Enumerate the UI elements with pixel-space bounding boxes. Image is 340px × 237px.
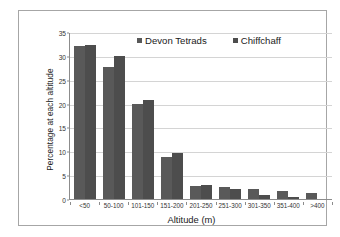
bar-series-1[interactable] [219,187,230,199]
x-tick-label: >400 [303,202,332,209]
x-tick-mark [303,202,304,205]
x-tick-mark [157,202,158,205]
x-tick-mark [216,202,217,205]
bar-series-1[interactable] [277,191,288,199]
x-tick-mark [128,202,129,205]
x-tick-label: <50 [70,202,99,209]
x-tick-label: 50-100 [99,202,128,209]
x-axis-line [69,199,332,200]
bar-group [186,33,215,199]
bar-group [245,33,274,199]
y-tick-label: 30 [59,53,66,60]
bar-group [128,33,157,199]
x-tick-mark [70,202,71,205]
bar-series-1[interactable] [74,46,85,199]
plot-area: 05101520253035 [69,33,332,200]
y-axis-title: Percentage at each altitude [46,45,55,195]
x-axis-title: Altitude (m) [37,214,340,225]
x-tick-mark [186,202,187,205]
bar-group [274,33,303,199]
bars-layer [70,33,332,199]
x-tick-label: 101-150 [128,202,157,209]
bar-series-1[interactable] [306,193,317,199]
bar-series-2[interactable] [230,189,241,199]
x-tick-label: 301-350 [245,202,274,209]
y-tick-label: 15 [59,125,66,132]
bar-series-1[interactable] [161,157,172,199]
x-tick-mark [274,202,275,205]
x-tick-label: 201-250 [186,202,215,209]
x-tick-mark [332,202,333,205]
bar-series-2[interactable] [114,56,125,199]
x-tick-label: 351-400 [274,202,303,209]
bar-series-2[interactable] [85,45,96,199]
bar-series-2[interactable] [259,195,270,199]
x-axis-ticks: <5050-100101-150151-200201-250251-300301… [70,202,332,209]
x-tick-mark [245,202,246,205]
y-tick-label: 25 [59,77,66,84]
y-tick-label: 0 [62,197,66,204]
y-tick-label: 20 [59,101,66,108]
bar-series-1[interactable] [248,189,259,199]
y-tick-label: 35 [59,30,66,37]
bar-series-2[interactable] [172,153,183,199]
bar-series-2[interactable] [288,197,299,199]
y-tick-label: 5 [62,173,66,180]
bar-group [303,33,332,199]
bar-group [216,33,245,199]
bar-series-1[interactable] [132,104,143,199]
y-tick-label: 10 [59,149,66,156]
x-tick-label: 151-200 [157,202,186,209]
chart-figure: Percentage at each altitude Devon Tetrad… [0,0,340,237]
bar-group [70,33,99,199]
x-tick-mark [99,202,100,205]
bar-series-2[interactable] [201,185,212,199]
x-tick-label: 251-300 [216,202,245,209]
bar-series-1[interactable] [190,186,201,199]
bar-group [99,33,128,199]
bar-series-2[interactable] [143,100,154,199]
bar-group [157,33,186,199]
bar-series-1[interactable] [103,67,114,199]
chart-frame: Percentage at each altitude Devon Tetrad… [18,10,327,226]
